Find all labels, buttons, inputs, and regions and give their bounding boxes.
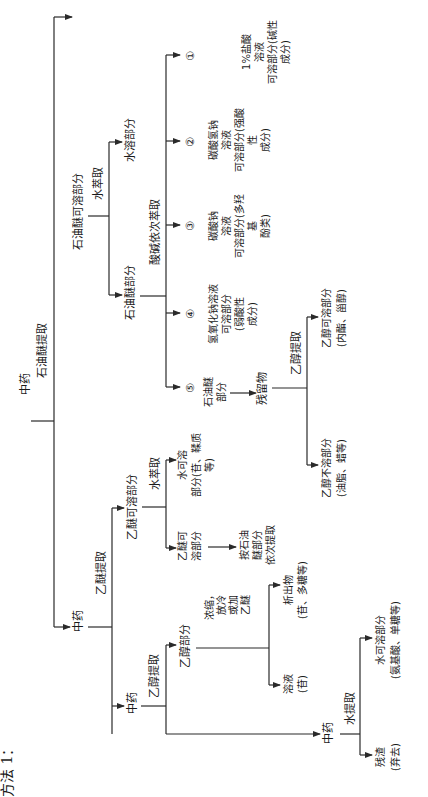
svg-text:碳酸氢钠: 碳酸氢钠 [207,120,219,160]
svg-text:成分): 成分) [280,40,291,64]
water-soluble-part: 水溶部分 [123,118,137,162]
ethanol-part: 乙醇部分 [178,624,192,668]
svg-text:(内酯、甾醇): (内酯、甾醇) [335,289,347,347]
svg-text:(弃去): (弃去) [389,743,401,771]
svg-text:③: ③ [184,221,197,231]
solution-glycosides: 溶液 (苷) [282,674,308,694]
svg-text:放冷: 放冷 [215,595,227,615]
fraction-2-desc: 碳酸氢钠 溶液 可溶部分(强酸 性 成分) [207,108,271,172]
svg-text:乙醚: 乙醚 [239,595,251,615]
step-acid-base-sequential: 酸碱依次萃取 [148,199,162,265]
svg-text:(苷): (苷) [296,675,308,693]
svg-text:中药: 中药 [126,692,139,714]
extraction-flowchart: 方法 1： 中药 石油醚提取 石油醚可溶部分 水萃取 水溶部分 石油醚部分 酸碱… [0,0,428,797]
svg-text:乙醚提取: 乙醚提取 [94,551,108,595]
svg-text:水提取: 水提取 [344,692,357,725]
svg-text:依次提取: 依次提取 [264,525,276,565]
svg-text:(苷、多糖等): (苷、多糖等) [296,561,308,619]
svg-text:水萃取: 水萃取 [149,457,162,490]
residue-discard: 残渣 (弃去) [374,743,401,771]
precipitate: 析出物 (苷、多糖等) [282,561,308,619]
ether-water-soluble-part: 水可溶 部分(苷、鞣质 等) [176,433,215,497]
svg-text:成分): 成分) [247,302,258,326]
svg-text:②: ② [184,137,197,147]
svg-text:水溶部分: 水溶部分 [123,118,137,162]
svg-text:可溶部分(强酸: 可溶部分(强酸 [233,108,245,172]
svg-text:乙醚可: 乙醚可 [176,531,188,561]
svg-text:石油醚部分: 石油醚部分 [123,265,137,320]
ether-soluble-part: 乙醚可溶部分 [125,474,139,540]
svg-text:水可溶部分: 水可溶部分 [374,615,386,665]
svg-text:水萃取: 水萃取 [92,167,105,200]
svg-text:溶液: 溶液 [282,674,294,694]
root-herb-ether: 中药 [72,610,85,632]
water-extract-soluble: 水可溶部分 (氨基酸、单糖等) [374,601,401,679]
fraction-1-number: ① [184,51,197,61]
svg-text:⑤: ⑤ [184,383,197,393]
pe-part: 石油醚部分 [123,265,137,320]
svg-text:析出物: 析出物 [282,575,294,605]
svg-text:④: ④ [184,309,197,319]
svg-text:(弱酸性: (弱酸性 [233,297,245,331]
svg-text:残留物: 残留物 [255,372,269,405]
svg-text:水可溶: 水可溶 [176,450,188,480]
ether-soluble-fraction: 乙醚可 溶部分 [176,531,202,561]
svg-text:或加: 或加 [228,595,239,615]
root-herb-top: 中药 [19,373,32,395]
svg-text:乙醚可溶部分: 乙醚可溶部分 [125,474,139,540]
svg-text:成分): 成分) [260,128,271,152]
ethanol-treatment: 浓缩， 放冷 或加 乙醚 [203,590,251,620]
fraction-4-number: ④ [184,309,197,319]
svg-text:乙醇部分: 乙醇部分 [178,624,192,668]
svg-text:基: 基 [246,221,258,231]
svg-text:①: ① [184,51,197,61]
follow-pe-scheme: 按石油 醚部分 依次提取 [238,525,276,565]
fraction-2-number: ② [184,137,197,147]
step-ethanol-extraction: 乙醇提取 [147,654,161,698]
svg-text:等): 等) [203,458,215,472]
step-ether-extraction: 乙醚提取 [94,551,108,595]
svg-text:部分(苷、鞣质: 部分(苷、鞣质 [190,433,202,497]
svg-text:酚类): 酚类) [259,214,271,238]
fraction-3-desc: 碳酸钠 溶液 可溶部分(多羟 基 酚类) [207,194,271,258]
svg-text:浓缩，: 浓缩， [203,590,215,620]
svg-text:方法 1：: 方法 1： [0,742,15,797]
residue-label: 残留物 [255,372,269,405]
method-title: 方法 1： [0,742,15,797]
svg-text:可溶部分(多羟: 可溶部分(多羟 [233,194,245,258]
step-water-partition: 水萃取 [92,167,105,200]
svg-text:溶液: 溶液 [220,216,232,236]
svg-text:乙醇提取: 乙醇提取 [289,331,303,375]
svg-text:乙醇不溶部分: 乙醇不溶部分 [320,438,332,498]
svg-text:可溶部分(碱性: 可溶部分(碱性 [266,20,278,84]
svg-text:乙醇提取: 乙醇提取 [147,654,161,698]
step-water-partition-ether: 水萃取 [149,457,162,490]
fraction-4-desc: 氢氧化钠溶液 可溶部分 (弱酸性 成分) [207,284,258,344]
svg-text:部分: 部分 [215,382,227,402]
svg-text:碳酸钠: 碳酸钠 [207,211,219,241]
svg-text:石油醚提取: 石油醚提取 [35,323,49,378]
svg-text:溶部分: 溶部分 [190,531,202,561]
pe-soluble-part: 石油醚可溶部分 [71,173,85,250]
svg-text:石油醚: 石油醚 [202,377,214,407]
root-herb-ethanol: 中药 [126,692,139,714]
root-herb-water: 中药 [322,722,335,744]
svg-text:醚部分: 醚部分 [251,530,263,560]
fraction-5-desc: 石油醚 部分 [202,377,227,407]
svg-text:残渣: 残渣 [374,747,386,767]
fraction-3-number: ③ [184,221,197,231]
svg-text:性: 性 [246,135,258,145]
step-ethanol-extraction-residue: 乙醇提取 [289,331,303,375]
svg-text:氢氧化钠溶液: 氢氧化钠溶液 [207,284,219,344]
svg-text:(氨基酸、单糖等): (氨基酸、单糖等) [389,601,401,679]
svg-text:中药: 中药 [72,610,85,632]
svg-text:按石油: 按石油 [238,530,250,560]
svg-text:中药: 中药 [19,373,32,395]
svg-text:溶液: 溶液 [220,130,232,150]
svg-text:可溶部分: 可溶部分 [220,294,232,334]
svg-text:(油脂、蜡等): (油脂、蜡等) [335,439,347,497]
svg-text:石油醚可溶部分: 石油醚可溶部分 [71,173,85,250]
svg-text:溶液: 溶液 [253,42,265,62]
ethanol-soluble-part: 乙醇可溶部分 (内酯、甾醇) [320,288,347,348]
svg-text:中药: 中药 [322,722,335,744]
